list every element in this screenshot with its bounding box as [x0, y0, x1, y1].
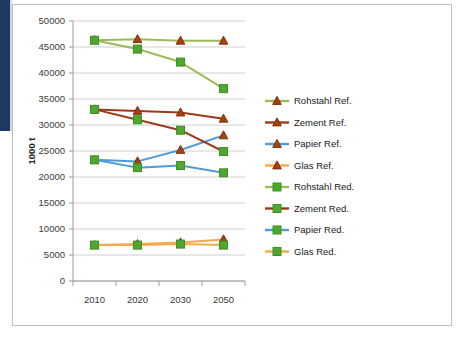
- legend-item-papier-ref[interactable]: Papier Ref.: [265, 138, 342, 149]
- legend-label: Rohstahl Ref.: [294, 95, 352, 106]
- marker-square: [220, 169, 228, 177]
- legend-label: Zement Red.: [294, 203, 349, 214]
- legend-label: Glas Ref.: [294, 160, 334, 171]
- y-tick-label: 50000: [39, 15, 65, 26]
- marker-square: [134, 164, 142, 172]
- chart-plot-area: 0500010000150002000025000300003500040000…: [13, 5, 451, 325]
- series-line-papier-red: [95, 160, 224, 173]
- series-line-papier-ref: [95, 135, 224, 161]
- legend-marker-square: [273, 226, 281, 234]
- marker-square: [177, 126, 185, 134]
- legend-item-rohstahl-red[interactable]: Rohstahl Red.: [265, 181, 354, 192]
- marker-square: [220, 241, 228, 249]
- marker-square: [134, 241, 142, 249]
- legend-item-zement-red[interactable]: Zement Red.: [265, 203, 349, 214]
- marker-square: [91, 105, 99, 113]
- line-chart: 0500010000150002000025000300003500040000…: [13, 5, 451, 325]
- y-tick-label: 40000: [39, 67, 65, 78]
- series-line-rohstahl-ref: [95, 39, 224, 41]
- legend-item-rohstahl-ref[interactable]: Rohstahl Ref.: [265, 95, 352, 106]
- legend-item-glas-red[interactable]: Glas Red.: [265, 246, 336, 257]
- y-tick-label: 35000: [39, 93, 65, 104]
- marker-square: [177, 162, 185, 170]
- legend-item-zement-ref[interactable]: Zement Ref.: [265, 117, 346, 128]
- series-line-glas-red: [95, 244, 224, 245]
- page-decoration-bar: [0, 0, 10, 131]
- x-tick-label: 2030: [170, 294, 191, 305]
- legend-item-papier-red[interactable]: Papier Red.: [265, 224, 344, 235]
- y-tick-label: 10000: [39, 223, 65, 234]
- marker-square: [134, 116, 142, 124]
- marker-square: [91, 241, 99, 249]
- marker-square: [134, 45, 142, 53]
- x-tick-label: 2050: [213, 294, 234, 305]
- legend-marker-square: [273, 183, 281, 191]
- marker-square: [91, 36, 99, 44]
- y-tick-label: 20000: [39, 171, 65, 182]
- y-tick-label: 25000: [39, 145, 65, 156]
- legend-label: Zement Ref.: [294, 117, 346, 128]
- legend-label: Papier Red.: [294, 224, 344, 235]
- legend-label: Glas Red.: [294, 246, 336, 257]
- marker-square: [177, 58, 185, 66]
- legend-marker-square: [273, 248, 281, 256]
- y-tick-label: 0: [60, 275, 65, 286]
- marker-square: [220, 148, 228, 156]
- legend-label: Papier Ref.: [294, 138, 342, 149]
- x-tick-label: 2010: [84, 294, 105, 305]
- chart-container: 0500010000150002000025000300003500040000…: [12, 4, 452, 326]
- marker-square: [220, 85, 228, 93]
- y-tick-label: 45000: [39, 41, 65, 52]
- legend-item-glas-ref[interactable]: Glas Ref.: [265, 160, 334, 171]
- marker-square: [91, 156, 99, 164]
- marker-square: [177, 240, 185, 248]
- x-tick-label: 2020: [127, 294, 148, 305]
- y-tick-label: 15000: [39, 197, 65, 208]
- legend-marker-square: [273, 205, 281, 213]
- y-axis-title: 1000 t: [26, 137, 37, 165]
- y-tick-label: 30000: [39, 119, 65, 130]
- y-tick-label: 5000: [44, 249, 65, 260]
- legend-label: Rohstahl Red.: [294, 181, 354, 192]
- marker-triangle: [219, 131, 228, 139]
